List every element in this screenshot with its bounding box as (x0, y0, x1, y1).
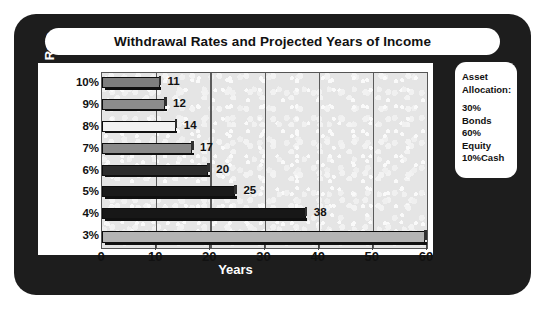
x-tick-label: 40 (310, 249, 324, 264)
chart-panel: 10%9%8%7%6%5%4%3% 11121417202538 0102030… (38, 63, 433, 255)
asset-heading-line2: Allocation: (462, 84, 510, 97)
bar-value-label: 11 (168, 75, 180, 87)
bar (102, 208, 306, 219)
bar-row (102, 226, 427, 248)
x-tick-mark (372, 245, 373, 250)
bar-value-label: 17 (200, 141, 213, 153)
asset-item-bonds: 30% Bonds (462, 102, 510, 127)
x-tick-mark (155, 245, 156, 250)
y-tick-label: 10% (64, 72, 99, 94)
bar-row: 17 (102, 139, 427, 161)
asset-item-cash: 10%Cash (462, 152, 510, 165)
y-tick-label: 8% (64, 116, 99, 138)
asset-heading-line1: Asset (462, 71, 510, 84)
x-tick-label: 50 (365, 249, 379, 264)
y-tick-label: 9% (64, 94, 99, 116)
bar-row: 11 (102, 73, 427, 95)
x-tick-mark (318, 245, 319, 250)
bar-row: 12 (102, 95, 427, 117)
asset-allocation-box: Asset Allocation: 30% Bonds 60% Equity 1… (455, 62, 517, 178)
bar (102, 121, 176, 132)
y-tick-label: 4% (64, 203, 99, 225)
bar-row: 14 (102, 117, 427, 139)
x-tick-label: 30 (256, 249, 270, 264)
x-tick-mark (426, 245, 427, 250)
bar-row: 25 (102, 182, 427, 204)
chart-frame: Withdrawal Rates and Projected Years of … (14, 14, 531, 295)
x-axis-tick-labels: 0102030405060 (101, 249, 426, 269)
bar (102, 99, 165, 110)
x-tick-mark (209, 245, 210, 250)
y-tick-label: 6% (64, 160, 99, 182)
x-tick-mark (264, 245, 265, 250)
bar-row: 38 (102, 204, 427, 226)
y-tick-label: 3% (64, 225, 99, 247)
y-tick-label: 7% (64, 138, 99, 160)
bar (102, 165, 208, 176)
bar-row: 20 (102, 161, 427, 183)
x-tick-label: 60 (419, 249, 433, 264)
x-tick-label: 10 (148, 249, 162, 264)
bar-value-label: 25 (243, 184, 256, 196)
x-tick-label: 20 (202, 249, 216, 264)
gridline (427, 73, 428, 248)
y-axis-tick-labels: 10%9%8%7%6%5%4%3% (64, 72, 99, 247)
bar (102, 231, 425, 243)
asset-item-equity: 60% Equity (462, 127, 510, 152)
title-banner: Withdrawal Rates and Projected Years of … (45, 28, 500, 55)
bar (102, 186, 235, 197)
bar-value-label: 14 (184, 119, 197, 131)
bar-value-label: 38 (314, 206, 327, 218)
plot-area: 11121417202538 (101, 72, 428, 249)
x-tick-label: 0 (97, 249, 104, 264)
page-title: Withdrawal Rates and Projected Years of … (114, 34, 431, 49)
bar-value-label: 20 (216, 163, 229, 175)
bar (102, 77, 160, 88)
bar (102, 143, 192, 154)
bar-value-label: 12 (173, 97, 186, 109)
y-tick-label: 5% (64, 181, 99, 203)
